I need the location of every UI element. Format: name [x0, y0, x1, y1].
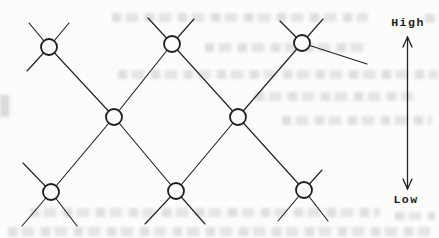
scale-arrowhead-down — [403, 179, 408, 189]
scanned-page: High Low — [0, 0, 439, 238]
scale-low-label: Low — [393, 193, 418, 206]
scale-arrowhead-up — [408, 37, 413, 47]
lattice-diagram: High Low — [0, 0, 439, 238]
lattice-edge-top-right-middle-right — [238, 43, 302, 117]
scale-arrow: High Low — [391, 16, 425, 206]
lattice-edge-middle-left-bottom-left — [51, 117, 114, 192]
lattice-edges — [22, 18, 367, 226]
lattice-node-top-right — [294, 35, 310, 51]
lattice-stub-top-right — [302, 43, 367, 64]
lattice-nodes — [41, 35, 312, 200]
lattice-edge-middle-right-bottom-middle — [176, 117, 238, 191]
scale-arrow-lines — [403, 37, 412, 189]
scale-arrowhead-down — [408, 179, 413, 189]
lattice-node-middle-left — [106, 109, 122, 125]
lattice-edge-middle-right-bottom-right — [238, 117, 304, 190]
lattice-edge-top-left-middle-left — [49, 47, 114, 117]
lattice-node-bottom-right — [296, 182, 312, 198]
lattice-node-bottom-left — [43, 184, 59, 200]
lattice-node-middle-right — [230, 109, 246, 125]
lattice-edge-top-middle-middle-left — [114, 44, 172, 117]
lattice-edge-top-middle-middle-right — [172, 44, 238, 117]
lattice-node-top-left — [41, 39, 57, 55]
scale-high-label: High — [391, 16, 425, 29]
lattice-node-bottom-middle — [168, 183, 184, 199]
lattice-edge-middle-left-bottom-middle — [114, 117, 176, 191]
scale-arrowhead-up — [403, 37, 408, 47]
lattice-node-top-middle — [164, 36, 180, 52]
